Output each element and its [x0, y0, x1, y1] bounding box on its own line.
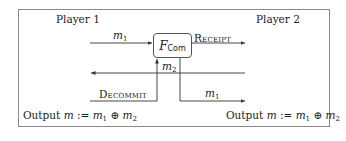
m1-out-label: m1: [205, 88, 219, 101]
m2-label: m2: [162, 61, 176, 74]
player-1-output: Output m := m1 ⊕ m2: [23, 110, 137, 123]
player-2-output: Output m := m1 ⊕ m2: [226, 110, 340, 123]
player-2-label: Player 2: [256, 14, 300, 25]
decommit-label: Decommit: [99, 89, 147, 100]
m1-in-label: m1: [113, 30, 127, 43]
f-com-box: FCom: [153, 33, 192, 58]
receipt-label: Receipt: [194, 33, 231, 44]
f-com-symbol: F: [159, 39, 167, 53]
player-1-label: Player 1: [56, 14, 100, 25]
f-com-subscript: Com: [168, 44, 186, 53]
